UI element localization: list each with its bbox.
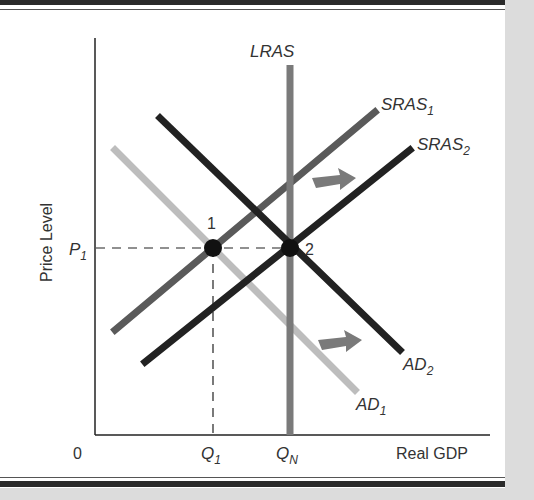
equilibrium-point-1 (204, 239, 222, 257)
sras1-label: SRAS1 (381, 95, 434, 118)
p1-tick-label: P1 (69, 240, 87, 263)
ad1-label: AD1 (355, 395, 386, 418)
q1-tick-label: Q1 (201, 444, 221, 467)
origin-label: 0 (73, 445, 82, 462)
sras2-label: SRAS2 (417, 135, 470, 158)
point-1-label: 1 (207, 215, 216, 232)
sras-shift-arrow-icon (312, 168, 356, 190)
ad-shift-arrow-icon (318, 330, 362, 352)
x-axis-title: Real GDP (396, 445, 468, 462)
qn-tick-label: QN (276, 444, 298, 467)
sras2-curve (145, 150, 410, 362)
equilibrium-point-2 (281, 239, 299, 257)
as-ad-diagram: 1 2 LRAS SRAS1 SRAS2 AD2 AD1 P1 0 Q1 QN … (0, 0, 534, 500)
ad2-label: AD2 (402, 355, 434, 378)
lras-label: LRAS (250, 42, 295, 61)
sras1-curve (115, 112, 375, 330)
y-axis-title: Price Level (38, 203, 55, 282)
point-2-label: 2 (305, 241, 314, 258)
